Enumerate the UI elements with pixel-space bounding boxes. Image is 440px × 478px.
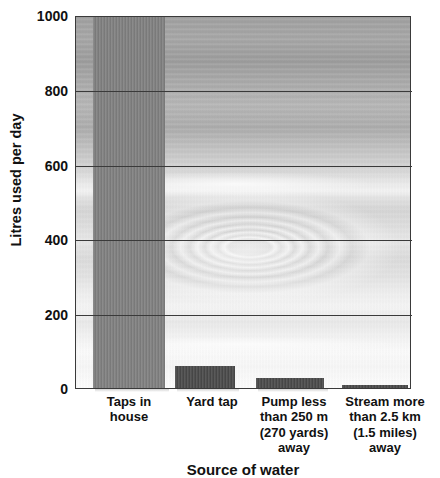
x-label-line: than 2.5 km: [330, 409, 440, 424]
y-tick-800: 800: [2, 84, 68, 98]
x-axis-title: Source of water: [75, 461, 411, 478]
y-axis-title: Litres used per day: [8, 80, 24, 280]
x-label-line: (1.5 miles): [330, 425, 440, 440]
y-tick-200: 200: [2, 308, 68, 322]
x-label-line: house: [75, 409, 183, 424]
y-tick-0: 0: [2, 382, 68, 396]
plot-area-frame: [75, 16, 411, 389]
y-tick-600: 600: [2, 159, 68, 173]
x-category-label-stream-more-than-2-5km: Stream more than 2.5 km (1.5 miles) away: [330, 394, 440, 455]
x-label-line: away: [330, 440, 440, 455]
y-tick-1000: 1000: [2, 9, 68, 23]
y-tick-400: 400: [2, 233, 68, 247]
x-label-line: Stream more: [330, 394, 440, 409]
